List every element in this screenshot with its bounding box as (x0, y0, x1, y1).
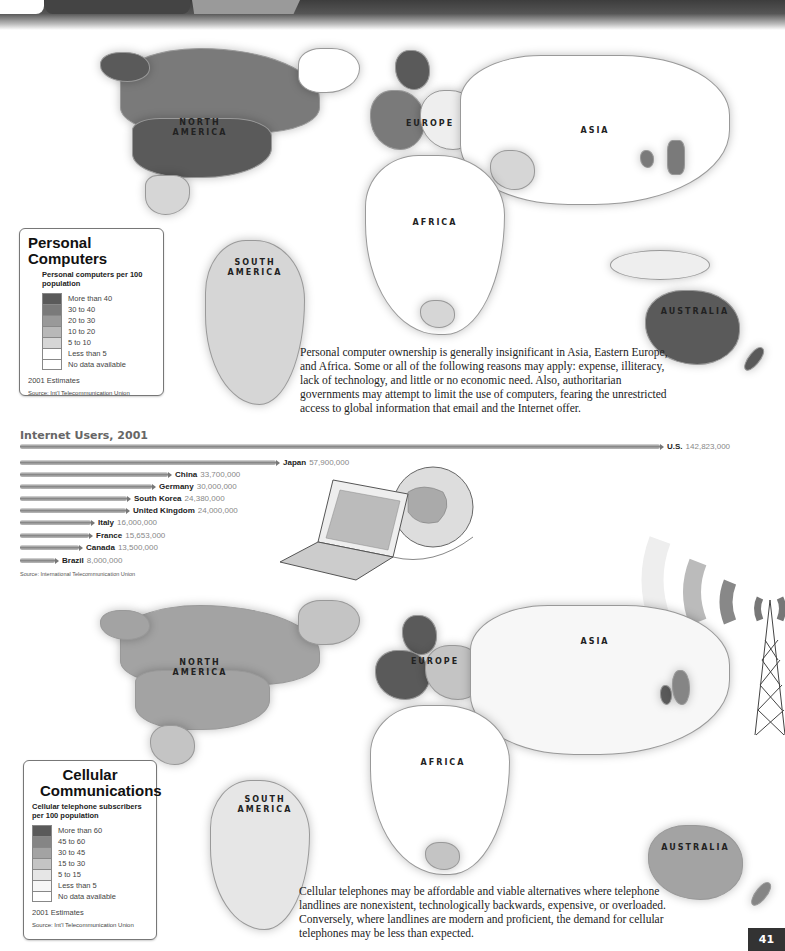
cell-label-north-america: NORTH AMERICA (160, 658, 240, 678)
cell-legend-item: 5 to 15 (32, 869, 148, 880)
internet-chart-source: Source: International Telecommunication … (20, 571, 135, 577)
cell-legend-estimates: 2001 Estimates (32, 908, 148, 917)
cell-label-asia: ASIA (570, 637, 620, 647)
pc-legend-item: 20 to 30 (42, 315, 155, 326)
chart-bar-brazil: Brazil8,000,000 (20, 556, 122, 565)
pc-legend-item: 5 to 10 (42, 337, 155, 348)
pc-label-north-america: NORTH AMERICA (155, 118, 245, 138)
legend-swatch (32, 836, 52, 847)
cell-land-scandinavia (402, 615, 437, 655)
legend-swatch (42, 337, 62, 348)
cell-legend-item: 15 to 30 (32, 858, 148, 869)
legend-swatch (42, 359, 62, 370)
cell-legend-item: 30 to 45 (32, 847, 148, 858)
legend-swatch (32, 825, 52, 836)
legend-swatch (32, 858, 52, 869)
chart-bar-south-korea: South Korea24,380,000 (20, 494, 225, 503)
chart-bar-uk: United Kingdom24,000,000 (20, 506, 238, 515)
chart-bar-france: France15,653,000 (20, 531, 165, 540)
chart-bar-us: U.S.142,823,000 (20, 442, 730, 451)
legend-swatch (42, 293, 62, 304)
pc-land-japan (667, 140, 685, 175)
pc-legend-title: Personal Computers (28, 235, 155, 267)
cell-legend-item: No data available (32, 891, 148, 902)
legend-swatch (42, 315, 62, 326)
pc-label-africa: AFRICA (400, 218, 470, 228)
cell-land-asia (470, 605, 730, 755)
pc-legend-item: Less than 5 (42, 348, 155, 359)
cell-legend: Cellular Communications Cellular telepho… (23, 760, 157, 940)
pc-legend-item: 10 to 20 (42, 326, 155, 337)
pc-legend-subtitle: Personal computers per 100 population (42, 271, 152, 288)
cell-land-south-africa (425, 842, 460, 870)
cell-legend-source: Source: Int'l Telecommunication Union (32, 922, 148, 928)
legend-swatch (32, 847, 52, 858)
cell-label-europe: EUROPE (400, 657, 470, 667)
pc-land-greenland (298, 48, 360, 93)
legend-swatch (32, 880, 52, 891)
internet-chart-title: Internet Users, 2001 (20, 429, 148, 442)
pc-land-south-africa (420, 300, 455, 328)
cell-legend-item: Less than 5 (32, 880, 148, 891)
pc-label-south-america: SOUTH AMERICA (215, 258, 295, 278)
legend-swatch (42, 326, 62, 337)
pc-land-korea (640, 150, 654, 168)
chart-bar-canada: Canada13,500,000 (20, 543, 158, 552)
chart-bar-germany: Germany30,000,000 (20, 482, 237, 491)
pc-label-europe: EUROPE (395, 119, 465, 129)
cell-land-alaska (100, 610, 150, 640)
cell-land-mexico (150, 725, 195, 765)
laptop-globe-illustration (278, 462, 478, 582)
pc-land-scandinavia (395, 50, 430, 90)
legend-swatch (42, 348, 62, 359)
legend-swatch (42, 304, 62, 315)
pc-label-australia: AUSTRALIA (650, 307, 740, 317)
cell-caption: Cellular telephones may be affordable an… (299, 884, 689, 940)
pc-caption: Personal computer ownership is generally… (300, 345, 680, 415)
cell-land-greenland (298, 600, 360, 645)
cell-legend-title: Cellular Communications (32, 767, 148, 799)
pc-legend-estimates: 2001 Estimates (28, 376, 155, 385)
pc-legend-item: More than 40 (42, 293, 155, 304)
cell-label-australia: AUSTRALIA (648, 843, 743, 853)
pc-legend-source: Source: Int'l Telecommunication Union (28, 390, 155, 396)
cell-land-new-zealand (747, 879, 774, 908)
chart-bar-italy: Italy16,000,000 (20, 518, 157, 527)
legend-swatch (32, 891, 52, 902)
pc-label-asia: ASIA (570, 126, 620, 136)
pc-land-alaska (100, 52, 150, 82)
cell-land-usa (135, 670, 270, 730)
page-number-badge: 41 (748, 928, 785, 951)
pc-legend-item: No data available (42, 359, 155, 370)
pc-land-mexico (145, 175, 190, 215)
header-tab-notch (0, 0, 44, 14)
cell-legend-subtitle: Cellular telephone subscribers per 100 p… (32, 803, 148, 820)
header-tab-dark (45, 0, 190, 14)
pc-land-indonesia (610, 250, 710, 280)
cell-label-south-america: SOUTH AMERICA (225, 795, 305, 815)
pc-legend-item: 30 to 40 (42, 304, 155, 315)
cell-land-korea (660, 685, 672, 705)
cell-legend-item: More than 60 (32, 825, 148, 836)
cell-land-japan (672, 670, 690, 705)
cell-label-africa: AFRICA (408, 758, 478, 768)
cell-legend-item: 45 to 60 (32, 836, 148, 847)
legend-swatch (32, 869, 52, 880)
pc-legend: Personal Computers Personal computers pe… (19, 228, 164, 396)
chart-bar-china: China33,700,000 (20, 470, 240, 479)
header-tab-light (192, 0, 300, 14)
pc-land-new-zealand (740, 344, 767, 373)
